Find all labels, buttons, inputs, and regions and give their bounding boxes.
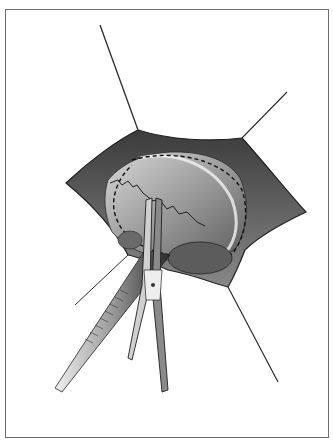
surgical-illustration [0, 0, 333, 444]
suture-top-right [242, 92, 287, 138]
wound-opening [66, 130, 306, 287]
suture-top-left [100, 25, 138, 130]
suture-bottom-right [228, 287, 278, 382]
